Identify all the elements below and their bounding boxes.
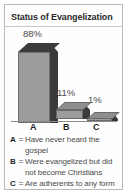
page-title: Status of Evangelization xyxy=(11,12,113,22)
legend-item-a: A = Have never heard the gospel xyxy=(10,134,122,156)
category-label-c: C xyxy=(93,122,100,132)
legend-key-b: B xyxy=(10,156,17,167)
legend-key-a: A xyxy=(10,134,17,145)
bar-value-label-b: 11% xyxy=(57,87,75,98)
category-axis: A B C xyxy=(5,122,122,134)
legend-key-c: C xyxy=(10,178,17,183)
legend-text-c: Are adherents to any form of Christianit… xyxy=(25,178,122,183)
category-label-a: A xyxy=(30,122,37,132)
legend-text-a: Have never heard the gospel xyxy=(25,134,122,156)
category-label-b: B xyxy=(63,122,70,132)
bar-value-label-a: 88% xyxy=(23,28,42,39)
legend-item-c: C = Are adherents to any form of Christi… xyxy=(10,178,122,183)
chart-panel: Status of Evangelization 88% 11% 1% A B … xyxy=(4,4,123,183)
legend-separator-b: = xyxy=(17,156,25,167)
chart-legend: A = Have never heard the gospel B = Were… xyxy=(10,134,122,183)
legend-separator-c: = xyxy=(17,178,25,183)
legend-separator-a: = xyxy=(17,134,25,145)
legend-item-b: B = Were evangelized but did not become … xyxy=(10,156,122,178)
chart-plot-area: 88% 11% 1% xyxy=(5,26,122,123)
legend-text-b: Were evangelized but did not become Chri… xyxy=(25,156,122,178)
bar-a[interactable] xyxy=(18,52,50,123)
bar-b[interactable] xyxy=(56,110,83,119)
